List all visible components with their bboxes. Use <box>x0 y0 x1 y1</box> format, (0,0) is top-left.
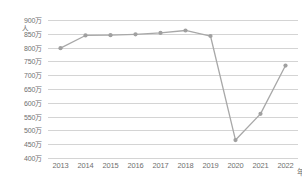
data-point-marker <box>58 46 62 50</box>
y-axis-tick-label: 450万 <box>24 139 42 149</box>
x-axis-tick-label: 2022 <box>278 161 294 170</box>
x-axis-tick-label: 2019 <box>203 161 219 170</box>
x-axis-labels: 2013201420152016201720182019202020212022 <box>48 161 298 177</box>
y-axis-tick-label: 600万 <box>24 98 42 108</box>
x-axis-tick-label: 2017 <box>153 161 169 170</box>
series-markers <box>58 28 287 142</box>
x-axis-tick-label: 2013 <box>53 161 69 170</box>
line-chart: 900万850万800万750万700万650万600万550万500万450万… <box>0 0 302 180</box>
data-point-marker <box>108 33 112 37</box>
data-point-marker <box>158 31 162 35</box>
x-axis-tick-label: 2020 <box>228 161 244 170</box>
series-line-group <box>48 20 298 158</box>
x-axis-tick-label: 2015 <box>103 161 119 170</box>
data-point-marker <box>283 63 287 67</box>
data-point-marker <box>233 138 237 142</box>
x-axis-tick-label: 2014 <box>78 161 94 170</box>
y-axis-unit: 人 <box>22 23 29 33</box>
series-line <box>61 30 286 140</box>
y-axis-tick-label: 550万 <box>24 112 42 122</box>
x-axis-tick-label: 2021 <box>253 161 269 170</box>
gridline <box>48 158 298 159</box>
data-point-marker <box>83 33 87 37</box>
data-point-marker <box>258 112 262 116</box>
y-axis-tick-label: 700万 <box>24 70 42 80</box>
y-axis-tick-label: 750万 <box>24 56 42 66</box>
y-axis-tick-label: 500万 <box>24 125 42 135</box>
y-axis-tick-label: 800万 <box>24 43 42 53</box>
data-point-marker <box>133 32 137 36</box>
y-axis-tick-label: 650万 <box>24 84 42 94</box>
x-axis-unit: 年 <box>297 166 302 177</box>
y-axis-labels: 900万850万800万750万700万650万600万550万500万450万… <box>0 20 46 158</box>
x-axis-tick-label: 2018 <box>178 161 194 170</box>
x-axis-tick-label: 2016 <box>128 161 144 170</box>
plot-area <box>48 20 298 158</box>
data-point-marker <box>208 34 212 38</box>
data-point-marker <box>183 28 187 32</box>
y-axis-tick-label: 400万 <box>24 153 42 163</box>
